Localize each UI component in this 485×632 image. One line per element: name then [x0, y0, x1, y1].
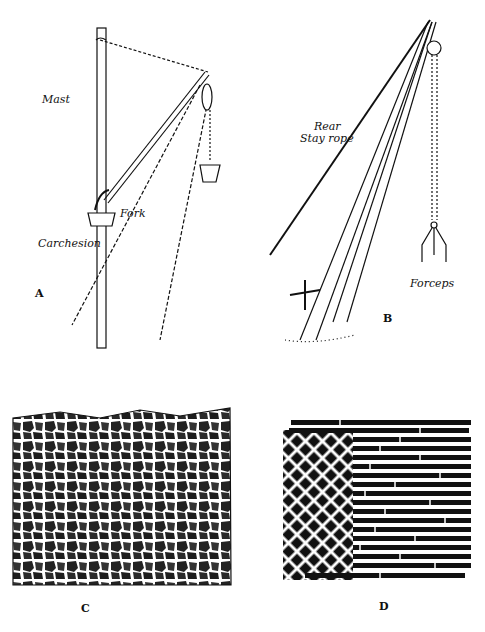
panel-b-crane — [270, 20, 446, 342]
panel-letter-b: B — [383, 312, 392, 325]
panel-c-stone-wall — [13, 408, 231, 585]
label-rear-stay-rope: Stay rope — [300, 133, 354, 145]
panel-d-masonry — [283, 420, 471, 580]
label-forceps: Forceps — [410, 278, 454, 290]
panel-letter-c: C — [81, 602, 90, 615]
figure-illustration — [0, 0, 485, 632]
label-mast: Mast — [42, 94, 70, 106]
label-fork: Fork — [120, 208, 146, 220]
label-carchesion: Carchesion — [38, 238, 101, 250]
panel-letter-d: D — [379, 600, 389, 613]
panel-letter-a: A — [35, 287, 44, 300]
panel-a-crane — [72, 28, 220, 348]
